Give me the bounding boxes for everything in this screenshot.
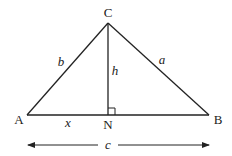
vertex-label-c: C	[104, 5, 113, 20]
dimension-label-c: c	[105, 137, 111, 152]
side-a-line	[108, 23, 209, 115]
side-label-b: b	[58, 54, 65, 69]
vertex-label-b: B	[214, 112, 223, 127]
vertex-label-a: A	[14, 112, 24, 127]
foot-label-n: N	[103, 117, 113, 132]
side-b-line	[27, 23, 108, 115]
segment-label-x: x	[64, 115, 71, 130]
right-angle-marker	[108, 108, 115, 115]
side-label-a: a	[159, 52, 166, 67]
altitude-label-h: h	[112, 63, 119, 78]
triangle-diagram: C A B N b a h x c	[0, 0, 232, 156]
